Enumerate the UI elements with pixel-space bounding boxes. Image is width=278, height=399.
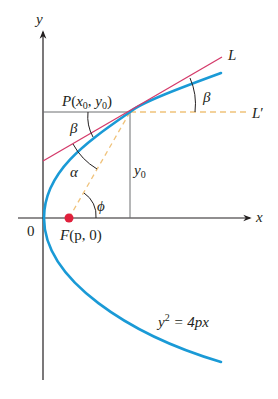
origin-label: 0 (27, 223, 35, 239)
line-L-prime-label: L′ (251, 105, 264, 121)
line-L-label: L (227, 47, 236, 63)
focus-point (65, 214, 74, 223)
phi-label: ϕ (97, 198, 105, 214)
focus-label: F(p, 0) (59, 227, 102, 244)
phi-arc (84, 193, 96, 218)
beta-label-right: β (202, 89, 211, 105)
y-axis-label: y (34, 11, 43, 27)
alpha-label: α (70, 164, 79, 180)
parabola-reflection-diagram: y x 0 P(x0, y0) F(p, 0) L L′ y0 β β α ϕ … (0, 0, 278, 399)
beta-label-left: β (69, 120, 78, 136)
y0-label: y0 (132, 162, 146, 180)
x-axis-label: x (255, 209, 263, 225)
equation-label: y2 = 4px (156, 312, 209, 330)
point-P-label: P(x0, y0) (61, 93, 112, 111)
